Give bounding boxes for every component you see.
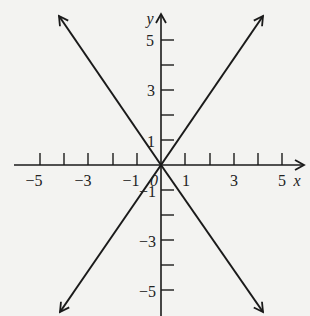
x-tick-label: 3 <box>230 172 238 189</box>
x-tick-label: −5 <box>25 172 42 189</box>
y-tick-label: 3 <box>147 82 155 99</box>
y-tick-label: −1 <box>139 183 156 200</box>
x-tick-label: −3 <box>74 172 91 189</box>
y-tick-label: −5 <box>139 283 156 300</box>
y-tick-label: −3 <box>139 233 156 250</box>
y-axis-label: y <box>144 10 154 28</box>
line-negative-slope-lower <box>161 165 263 312</box>
x-tick-label: 5 <box>278 172 286 189</box>
y-tick-label: 1 <box>147 133 155 150</box>
y-tick-label: 5 <box>146 32 154 49</box>
x-tick-label: −1 <box>122 172 139 189</box>
x-tick-label: 1 <box>182 172 190 189</box>
graph: −5 −3 −1 0 1 3 5 x y 5 3 1 −1 −3 −5 <box>0 0 310 316</box>
line-positive-slope <box>161 16 263 165</box>
x-axis-label: x <box>292 172 300 189</box>
